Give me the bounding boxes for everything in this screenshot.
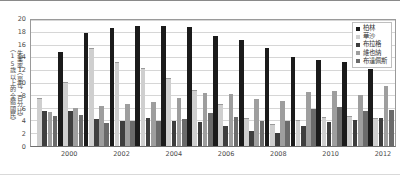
bar <box>198 122 203 146</box>
bar <box>322 117 327 146</box>
x-tick-label: 2012 <box>375 150 392 158</box>
bar <box>244 118 249 146</box>
bar <box>79 115 84 147</box>
bar <box>389 110 394 146</box>
bar <box>146 118 151 146</box>
bar-groups <box>31 20 395 146</box>
bar <box>156 121 161 146</box>
bar-group <box>265 20 291 146</box>
bar <box>58 52 63 147</box>
bar <box>296 120 301 146</box>
bar <box>89 48 94 146</box>
y-tick-label: 0 <box>22 143 26 151</box>
bar <box>260 121 265 146</box>
bar <box>104 123 109 146</box>
legend-swatch-icon <box>356 27 360 31</box>
x-tick-label: 2000 <box>61 150 78 158</box>
bar <box>347 116 352 146</box>
bar <box>358 95 363 146</box>
bar <box>342 62 347 146</box>
x-tick-label: 2002 <box>113 150 130 158</box>
bar-group <box>187 20 213 146</box>
bar <box>249 131 254 146</box>
bar <box>363 111 368 146</box>
y-tick-label: 8 <box>22 92 26 100</box>
y-tick-label: 4 <box>22 117 26 125</box>
bar <box>311 109 316 146</box>
bar <box>84 33 89 146</box>
bar <box>229 94 234 146</box>
bar-group <box>58 20 84 146</box>
bar <box>182 119 187 146</box>
bar <box>53 116 58 146</box>
bar <box>337 107 342 146</box>
bar <box>203 93 208 146</box>
bar-group <box>32 20 58 146</box>
bar-group <box>135 20 161 146</box>
chart-figure: 失業率（單位：百分比） （15歲以上的全體國民） 024681012141618… <box>0 0 400 175</box>
bar <box>120 121 125 146</box>
x-tick-label: 2004 <box>166 150 183 158</box>
legend-item[interactable]: 布拉格 <box>356 41 387 48</box>
bar <box>368 69 373 146</box>
bar <box>239 40 244 146</box>
bar <box>94 119 99 146</box>
legend-item-label: 布達佩斯 <box>363 58 387 65</box>
y-tick-label: 12 <box>18 66 26 74</box>
bar-group <box>239 20 265 146</box>
bar <box>285 121 290 146</box>
chart-legend: 柏林華沙布拉格維也納布達佩斯 <box>352 22 392 68</box>
bar <box>110 28 115 146</box>
bar <box>353 120 358 146</box>
legend-swatch-icon <box>356 35 360 39</box>
bar <box>384 86 389 146</box>
y-tick-label: 18 <box>18 28 26 36</box>
y-axis-ticks: 02468101214161820 <box>8 19 28 147</box>
plot-area-wrapper: 02468101214161820 <box>30 19 396 147</box>
legend-item-label: 柏林 <box>363 25 375 32</box>
bar <box>275 133 280 146</box>
bar <box>177 98 182 146</box>
x-tick-label: 2008 <box>270 150 287 158</box>
bar <box>213 36 218 146</box>
legend-item[interactable]: 柏林 <box>356 25 387 32</box>
bar <box>254 99 259 146</box>
bar <box>270 124 275 146</box>
bar <box>187 27 192 146</box>
y-tick-label: 6 <box>22 105 26 113</box>
bar <box>306 92 311 146</box>
legend-item-label: 布拉格 <box>363 41 381 48</box>
bar-group <box>84 20 110 146</box>
bar <box>73 108 78 146</box>
y-tick-label: 16 <box>18 41 26 49</box>
bar <box>135 26 140 146</box>
bar <box>48 112 53 146</box>
legend-item[interactable]: 維也納 <box>356 50 387 57</box>
bar <box>332 91 337 146</box>
x-axis-labels: 2000200220042006200820102012 <box>30 150 396 162</box>
x-tick-label: 2010 <box>322 150 339 158</box>
legend-swatch-icon <box>356 59 360 63</box>
legend-swatch-icon <box>356 43 360 47</box>
bar-group <box>213 20 239 146</box>
bar <box>223 126 228 146</box>
bar <box>130 121 135 146</box>
bar <box>63 82 68 146</box>
plot-area <box>30 19 396 147</box>
bar <box>301 126 306 146</box>
bar <box>125 104 130 146</box>
bar <box>280 101 285 146</box>
bar <box>172 121 177 146</box>
y-tick-label: 2 <box>22 130 26 138</box>
bar-group <box>291 20 317 146</box>
bar <box>373 118 378 146</box>
bar-group <box>316 20 342 146</box>
y-tick-label: 20 <box>18 15 26 23</box>
bar <box>166 78 171 146</box>
bar <box>37 98 42 146</box>
bar <box>141 68 146 146</box>
legend-item[interactable]: 布達佩斯 <box>356 58 387 65</box>
bar <box>151 102 156 146</box>
bar <box>291 57 296 146</box>
bar <box>327 122 332 146</box>
